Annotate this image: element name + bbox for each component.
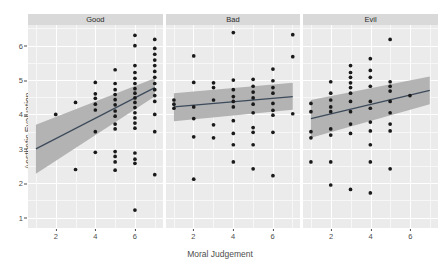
data-point bbox=[93, 150, 97, 154]
data-point bbox=[251, 167, 255, 171]
data-point bbox=[93, 102, 97, 106]
data-point bbox=[389, 111, 393, 115]
data-point bbox=[349, 132, 353, 136]
data-point bbox=[153, 94, 157, 98]
data-point bbox=[389, 38, 393, 42]
data-point bbox=[192, 117, 196, 121]
data-point bbox=[113, 82, 117, 86]
data-point bbox=[153, 70, 157, 74]
data-point bbox=[172, 98, 176, 102]
data-point bbox=[389, 122, 393, 126]
data-point bbox=[153, 130, 157, 134]
data-point bbox=[153, 82, 157, 86]
data-point bbox=[153, 100, 157, 104]
data-point bbox=[211, 81, 215, 85]
data-point bbox=[251, 78, 255, 82]
data-point bbox=[369, 191, 373, 195]
data-point bbox=[93, 81, 97, 85]
x-axis-tick-label: 2 bbox=[191, 232, 195, 241]
facet-panel-bad: Bad bbox=[166, 14, 301, 228]
x-axis-tick-label: 2 bbox=[329, 232, 333, 241]
y-axis-tick-label: 3 bbox=[19, 144, 23, 153]
data-point bbox=[113, 155, 117, 159]
data-point bbox=[93, 92, 97, 96]
data-point bbox=[231, 105, 235, 109]
facet-panel-evil: Evil bbox=[303, 14, 438, 228]
data-point bbox=[113, 109, 117, 113]
x-axis-tick-mark bbox=[331, 229, 332, 232]
data-point bbox=[349, 100, 353, 104]
data-point bbox=[389, 100, 393, 104]
data-point bbox=[349, 188, 353, 192]
data-point bbox=[271, 113, 275, 117]
plot-area bbox=[28, 25, 163, 228]
data-point bbox=[349, 81, 353, 85]
data-point bbox=[329, 133, 333, 137]
data-point bbox=[133, 116, 137, 120]
facet-strip-label: Bad bbox=[226, 16, 239, 24]
x-axis-tick-label: 6 bbox=[408, 232, 412, 241]
facet-panel-good: Good bbox=[28, 14, 163, 228]
data-point bbox=[349, 64, 353, 68]
data-point bbox=[251, 126, 255, 130]
x-axis-tick-label: 4 bbox=[369, 232, 373, 241]
data-point bbox=[251, 111, 255, 115]
y-axis-tick-label: 6 bbox=[19, 41, 23, 50]
data-point bbox=[271, 79, 275, 83]
data-point bbox=[251, 84, 255, 88]
x-axis-title: Moral Judgement bbox=[0, 249, 440, 259]
data-point bbox=[192, 105, 196, 109]
data-point bbox=[271, 102, 275, 106]
data-point bbox=[309, 130, 313, 134]
data-point bbox=[369, 160, 373, 164]
data-point bbox=[231, 95, 235, 99]
data-point bbox=[133, 157, 137, 161]
data-point bbox=[291, 112, 295, 116]
x-axis-tick-mark bbox=[56, 229, 57, 232]
data-point bbox=[291, 55, 295, 59]
x-axis-tick-mark bbox=[95, 229, 96, 232]
y-axis-tick-mark bbox=[24, 183, 27, 184]
data-point bbox=[133, 121, 137, 125]
data-point bbox=[291, 33, 295, 37]
data-point bbox=[93, 108, 97, 112]
data-point bbox=[369, 57, 373, 61]
data-point bbox=[133, 106, 137, 110]
y-axis-tick-mark bbox=[24, 218, 27, 219]
data-point bbox=[309, 102, 313, 106]
x-axis-tick-label: 6 bbox=[271, 232, 275, 241]
data-point bbox=[133, 101, 137, 105]
data-point bbox=[133, 126, 137, 130]
data-point bbox=[231, 132, 235, 136]
data-point bbox=[309, 110, 313, 114]
y-axis-tick-label: 1 bbox=[19, 213, 23, 222]
data-point bbox=[153, 75, 157, 79]
data-point bbox=[369, 84, 373, 88]
data-layer bbox=[28, 25, 163, 228]
data-point bbox=[329, 183, 333, 187]
data-point bbox=[349, 71, 353, 75]
y-axis-tick-mark bbox=[24, 80, 27, 81]
data-point bbox=[349, 91, 353, 95]
data-point bbox=[251, 130, 255, 134]
data-point bbox=[349, 86, 353, 90]
data-point bbox=[231, 78, 235, 82]
data-point bbox=[389, 84, 393, 88]
data-point bbox=[153, 113, 157, 117]
x-axis-tick-mark bbox=[410, 229, 411, 232]
x-axis-tick-label: 4 bbox=[93, 232, 97, 241]
plot-area bbox=[166, 25, 301, 228]
data-point bbox=[93, 96, 97, 100]
data-point bbox=[329, 127, 333, 131]
x-axis-tick-mark bbox=[371, 229, 372, 232]
data-point bbox=[271, 86, 275, 90]
data-point bbox=[153, 52, 157, 56]
data-point bbox=[133, 87, 137, 91]
data-point bbox=[93, 130, 97, 134]
data-point bbox=[133, 82, 137, 86]
data-point bbox=[231, 31, 235, 35]
data-point bbox=[211, 98, 215, 102]
data-point bbox=[329, 160, 333, 164]
data-point bbox=[329, 110, 333, 114]
data-point bbox=[113, 93, 117, 97]
